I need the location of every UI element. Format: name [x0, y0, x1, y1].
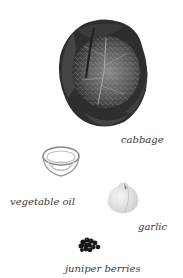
ingredients-illustration: cabbage vegetable oil garlic [0, 0, 183, 278]
juniper-berries-icon [77, 236, 103, 254]
vegetable-oil-label: vegetable oil [10, 197, 75, 207]
juniper-berries-label: juniper berries [65, 264, 141, 274]
oil-bowl-icon [40, 144, 82, 180]
garlic-label: garlic [138, 222, 167, 232]
cabbage-icon [54, 16, 150, 130]
cabbage-label: cabbage [121, 135, 164, 145]
garlic-icon [105, 180, 141, 216]
